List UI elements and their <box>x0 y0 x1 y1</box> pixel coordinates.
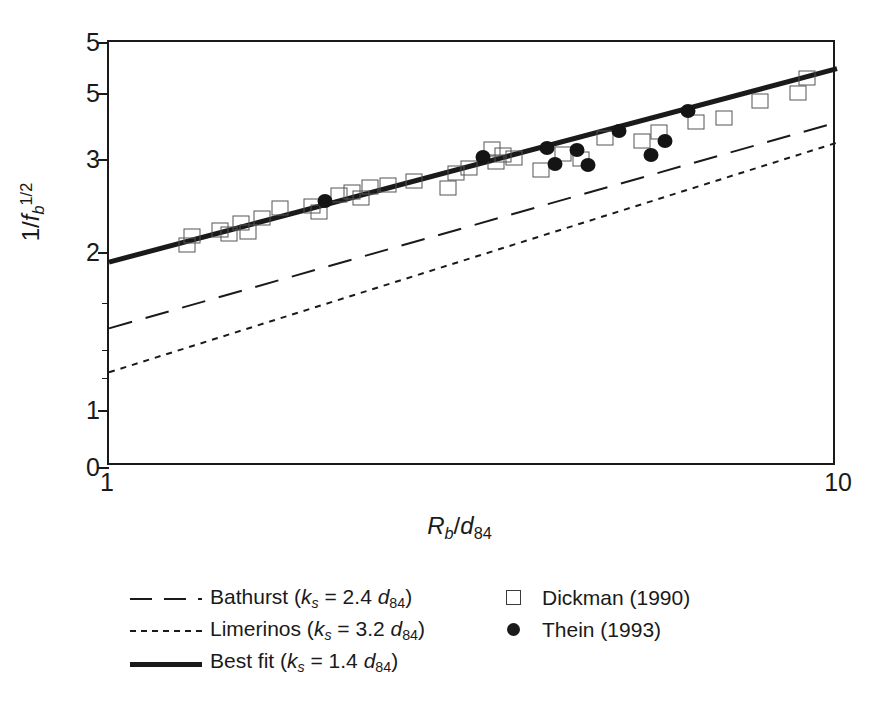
x-axis-title: Rb/d84 <box>0 512 879 543</box>
data-point-open-square <box>439 181 456 196</box>
y-axis-title-prefix: 1/ <box>17 221 44 241</box>
data-point-open-square <box>799 70 816 85</box>
data-point-open-square <box>752 94 769 109</box>
y-tick-minor <box>102 350 109 351</box>
legend-item-label: Dickman (1990) <box>542 586 690 610</box>
x-axis-title-var1: R <box>427 512 444 539</box>
plot-area: 1 10 553210 <box>107 40 835 465</box>
y-tick-minor <box>102 303 109 304</box>
y-axis-title: 1/fb1/2 <box>17 183 48 241</box>
data-point-filled-circle <box>612 124 627 138</box>
figure-container: 1/fb1/2 Rb/d84 1 10 553210 Bathurst (ks … <box>0 0 879 712</box>
data-point-filled-circle <box>475 150 490 164</box>
trend-lines <box>109 42 837 467</box>
legend-item[interactable]: Limerinos (ks = 3.2 d84) <box>130 615 425 645</box>
data-point-open-square <box>716 111 733 126</box>
y-tick-label: 5 <box>86 30 100 55</box>
dotted-line <box>130 619 202 641</box>
solid-thick-line <box>130 651 202 673</box>
legend-key-line <box>130 598 202 600</box>
y-tick-label: 1 <box>86 398 100 423</box>
legend-key-line <box>130 630 202 632</box>
legend-column-series: Dickman (1990)Thein (1993) <box>502 583 690 647</box>
legend-key-marker <box>506 590 521 605</box>
long-dash-line <box>130 587 202 609</box>
data-point-open-square <box>253 210 270 225</box>
data-point-open-square <box>272 200 289 215</box>
x-axis-title-sub1: b <box>445 524 454 542</box>
legend-key-line <box>130 662 202 667</box>
data-point-filled-circle <box>643 148 658 162</box>
y-tick-label: 2 <box>86 239 100 264</box>
y-axis-title-sub: b <box>29 205 47 214</box>
data-point-open-square <box>505 151 522 166</box>
legend-item-label: Best fit (ks = 1.4 d84) <box>210 649 398 675</box>
legend-column-lines: Bathurst (ks = 2.4 d84)Limerinos (ks = 3… <box>130 583 425 679</box>
x-tick-label-1: 1 <box>100 470 114 495</box>
y-axis-title-sup: 1/2 <box>17 183 35 206</box>
legend-item[interactable]: Thein (1993) <box>502 615 690 645</box>
x-axis-title-sub2: 84 <box>474 524 492 542</box>
legend-item[interactable]: Bathurst (ks = 2.4 d84) <box>130 583 425 613</box>
data-point-open-square <box>405 174 422 189</box>
y-tick-label: 0 <box>86 455 100 480</box>
y-tick-label: 5 <box>86 81 100 106</box>
data-point-filled-circle <box>548 157 563 171</box>
filled-circle-marker <box>502 619 532 641</box>
legend-item[interactable]: Best fit (ks = 1.4 d84) <box>130 647 425 677</box>
data-point-filled-circle <box>681 104 696 118</box>
legend-item-label: Limerinos (ks = 3.2 d84) <box>210 617 425 643</box>
legend-item-label: Thein (1993) <box>542 618 661 642</box>
data-point-filled-circle <box>540 141 555 155</box>
data-point-filled-circle <box>657 134 672 148</box>
data-point-open-square <box>361 180 378 195</box>
data-point-open-square <box>634 133 651 148</box>
y-axis-title-var: f <box>17 215 44 222</box>
x-tick-label-10: 10 <box>824 470 852 495</box>
data-point-open-square <box>460 161 477 176</box>
data-point-open-square <box>596 131 613 146</box>
open-square-marker <box>502 587 532 609</box>
legend-item[interactable]: Dickman (1990) <box>502 583 690 613</box>
y-tick-minor <box>102 378 109 379</box>
data-point-open-square <box>239 224 256 239</box>
data-point-open-square <box>380 177 397 192</box>
data-point-filled-circle <box>317 194 332 208</box>
legend-item-label: Bathurst (ks = 2.4 d84) <box>210 585 412 611</box>
x-axis-title-var2: d <box>460 512 473 539</box>
legend-key-marker <box>507 623 520 636</box>
data-point-filled-circle <box>570 143 585 157</box>
data-point-open-square <box>183 229 200 244</box>
data-point-open-square <box>790 86 807 101</box>
y-tick-label: 3 <box>86 146 100 171</box>
data-point-filled-circle <box>581 158 596 172</box>
trend-line <box>109 143 837 373</box>
